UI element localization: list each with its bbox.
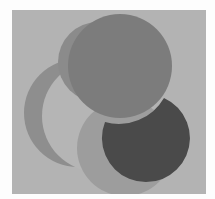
abstract-circles-artwork [0,0,215,199]
top-circle [68,14,172,118]
